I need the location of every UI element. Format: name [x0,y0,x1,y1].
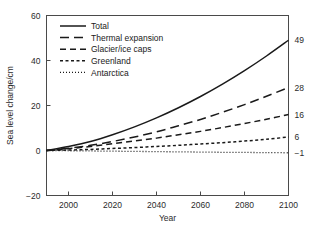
series-line-total [47,40,289,150]
series-end-label-greenland: 6 [295,132,300,142]
series-line-glacier-ice-caps [47,115,289,151]
x-tick-label: 2020 [103,200,122,210]
sea-level-chart: −200204060200020202040206020802100YearSe… [0,0,319,240]
legend-label-antarctica: Antarctica [91,68,129,78]
legend-label-glacier-ice-caps: Glacier/ice caps [91,44,151,54]
x-tick-label: 2000 [59,200,78,210]
x-tick-label: 2100 [279,200,298,210]
y-tick-label: 20 [31,101,41,111]
legend-label-total: Total [91,21,109,31]
x-tick-label: 2040 [147,200,166,210]
y-tick-label: 60 [31,11,41,21]
x-tick-label: 2060 [191,200,210,210]
y-tick-label: 40 [31,56,41,66]
series-line-antarctica [47,151,289,153]
x-tick-label: 2080 [235,200,254,210]
y-tick-label: 0 [36,146,41,156]
series-end-label-total: 49 [295,35,305,45]
y-tick-label: −20 [26,191,41,201]
x-axis-title: Year [159,213,176,223]
legend-label-thermal-expansion: Thermal expansion [91,33,164,43]
legend: TotalThermal expansionGlacier/ice capsGr… [60,21,164,77]
series-end-label-antarctica: −1 [295,148,305,158]
y-axis-title: Sea level change/cm [5,66,15,145]
series-end-label-glacier-ice-caps: 16 [295,110,305,120]
chart-canvas: −200204060200020202040206020802100YearSe… [0,0,319,240]
series-end-label-thermal-expansion: 28 [295,83,305,93]
plot-frame [47,16,289,196]
legend-label-greenland: Greenland [91,56,131,66]
